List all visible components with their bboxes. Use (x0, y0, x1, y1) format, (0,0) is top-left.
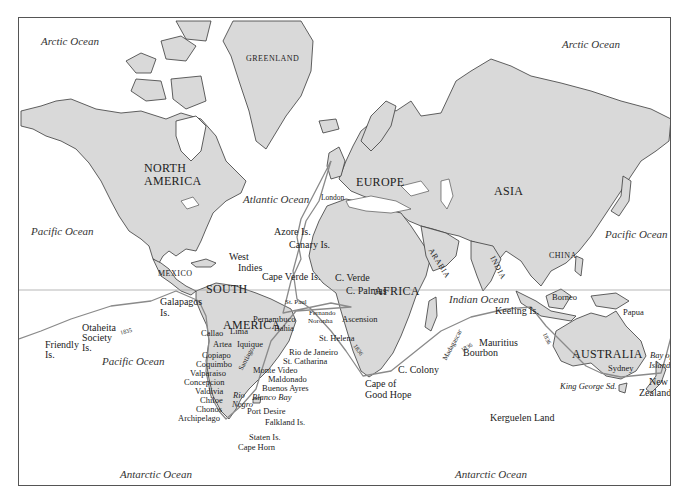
arctic-islands (126, 21, 211, 109)
c-verde-label: C. Verde (335, 272, 370, 283)
new-zealand-label-1: New (649, 376, 668, 387)
greenland-landmass (223, 21, 313, 149)
caribbean-islands (191, 259, 216, 267)
st-paul-label: St. Paul (285, 298, 307, 308)
indian-ocean-label: Indian Ocean (449, 294, 509, 305)
cape-of-good-hope-label-2: Good Hope (365, 389, 411, 400)
north-america-landmass (21, 99, 246, 263)
antarctic-ocean-label-left: Antarctic Ocean (120, 469, 192, 480)
lima-label: Lima (230, 327, 248, 337)
sydney-label: Sydney (608, 364, 634, 374)
falkland-label: Falkland Is. (265, 418, 305, 428)
canary-label: Canary Is. (289, 239, 330, 250)
arctic-ocean-label-right: Arctic Ocean (562, 39, 620, 50)
greenland-label: GREENLAND (246, 53, 299, 64)
ascension-label: Ascension (342, 315, 377, 325)
galapagos-label: Galapagos (160, 296, 202, 307)
pacific-ocean-label-ne: Pacific Ocean (605, 229, 668, 240)
blanco-bay-label: Blanco Bay (252, 393, 291, 403)
south-america-label-1: SOUTH (206, 284, 248, 295)
london-label: London (321, 193, 344, 203)
borneo-label: Borneo (552, 293, 577, 303)
arctic-ocean-label-left: Arctic Ocean (41, 36, 99, 47)
callao-label: Callao (201, 329, 223, 339)
c-palmas-label: C. Palmas (346, 285, 387, 296)
iceland (319, 119, 339, 133)
king-george-label: King George Sd. (560, 382, 617, 392)
pacific-ocean-label-s: Pacific Ocean (102, 356, 165, 367)
azore-label: Azore Is. (274, 226, 311, 237)
galapagos-is-label: Is. (160, 307, 170, 318)
noronha-label: Noronha (308, 317, 333, 327)
port-desire-label: Port Desire (247, 407, 285, 417)
atlantic-ocean-label: Atlantic Ocean (243, 194, 309, 205)
cape-of-good-hope-label-1: Cape of (365, 378, 396, 389)
bahia-label: Bahia (274, 324, 294, 334)
north-america-label-1: NORTH (144, 163, 186, 174)
artea-label: Artea (213, 340, 232, 350)
archipelago-label: Archipelago (178, 414, 220, 424)
mexico-label: MEXICO (158, 268, 193, 279)
cape-verde-is-label: Cape Verde Is. (262, 271, 320, 282)
new-zealand-label-2: Zealand (639, 387, 671, 398)
bay-of-islands-label-2: Islands (649, 361, 671, 371)
friendly-is-label: Is. (45, 349, 55, 360)
north-america-label-2: AMERICA (144, 176, 201, 187)
c-colony-label: C. Colony (398, 364, 439, 375)
cape-horn-label: Cape Horn (238, 443, 275, 453)
west-indies-label-2: Indies (238, 262, 262, 273)
keeling-label: Keeling Is. (495, 305, 539, 316)
society-is-label: Is. (82, 342, 92, 353)
tasmania (619, 383, 627, 393)
madagascar (425, 297, 437, 331)
asia-label: ASIA (494, 186, 523, 197)
iquique-label: Iquique (237, 340, 263, 350)
west-indies-label-1: West (229, 251, 249, 262)
kerguelen-label: Kerguelen Land (490, 412, 555, 423)
pacific-ocean-label-nw: Pacific Ocean (31, 226, 94, 237)
map-frame: Arctic Ocean Arctic Ocean Pacific Ocean … (18, 17, 671, 486)
china-label: CHINA (549, 250, 577, 261)
australia-label: AUSTRALIA (572, 349, 643, 360)
europe-label: EUROPE (356, 177, 404, 188)
antarctic-ocean-label-right: Antarctic Ocean (455, 469, 527, 480)
papua-label: Papua (623, 308, 644, 318)
st-helena-label: St. Helena (319, 334, 354, 344)
